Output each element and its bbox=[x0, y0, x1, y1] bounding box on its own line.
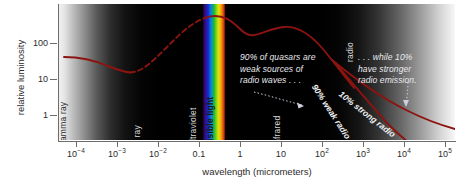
x-tick-label-1: 10−3 bbox=[108, 149, 126, 159]
x-tick-label-1-mantissa: 10 bbox=[108, 149, 118, 159]
plot-area: gamma ray X ray ultraviolet visible ligh… bbox=[58, 4, 455, 140]
x-tick-label-6-mantissa: 10 bbox=[315, 149, 325, 159]
x-tick-8 bbox=[404, 142, 405, 147]
y-tick-0 bbox=[50, 43, 57, 44]
x-tick-9 bbox=[445, 142, 446, 147]
annotation-strong-line3: radio emission. bbox=[358, 75, 417, 87]
y-tick-label-0: 100 bbox=[24, 38, 48, 48]
y-tick-label-2: 1 bbox=[24, 110, 48, 120]
x-tick-label-4: 1 bbox=[237, 149, 242, 159]
x-tick-label-2: 10−2 bbox=[149, 149, 167, 159]
leader-arrow-weak bbox=[297, 103, 304, 109]
x-tick-label-3: 0.1 bbox=[192, 149, 205, 159]
x-tick-label-5-mantissa: 10 bbox=[276, 149, 286, 159]
x-tick-label-8: 104 bbox=[397, 149, 411, 159]
spectrum-luminosity-figure: gamma ray X ray ultraviolet visible ligh… bbox=[0, 0, 476, 191]
curve-main-dashed-segment bbox=[130, 17, 210, 73]
annotation-weak-radio: 90% of quasars are weak sources of radio… bbox=[240, 52, 316, 87]
leader-arrow-strong bbox=[403, 100, 409, 107]
x-tick-label-7-mantissa: 10 bbox=[356, 149, 366, 159]
x-tick-7 bbox=[363, 142, 364, 147]
x-tick-label-6: 102 bbox=[315, 149, 329, 159]
x-tick-label-6-exp: 2 bbox=[325, 147, 329, 154]
x-tick-label-1-exp: −3 bbox=[118, 147, 126, 154]
annotation-weak-line2: weak sources of bbox=[240, 64, 316, 76]
y-tick-1 bbox=[50, 79, 57, 80]
annotation-strong-line1: . . . while 10% bbox=[358, 52, 417, 64]
leader-line-weak bbox=[254, 92, 302, 105]
x-tick-label-8-exp: 4 bbox=[407, 147, 411, 154]
x-tick-label-0-mantissa: 10 bbox=[67, 149, 77, 159]
x-tick-label-7-exp: 3 bbox=[366, 147, 370, 154]
x-tick-label-7: 103 bbox=[356, 149, 370, 159]
x-tick-label-5: 10 bbox=[276, 149, 286, 159]
x-tick-label-4-mantissa: 1 bbox=[237, 149, 242, 159]
annotation-strong-radio: . . . while 10% have stronger radio emis… bbox=[358, 52, 417, 87]
annotation-strong-line2: have stronger bbox=[358, 64, 417, 76]
y-axis-line bbox=[58, 4, 59, 141]
y-tick-label-1: 10 bbox=[24, 74, 48, 84]
x-tick-label-3-mantissa: 0.1 bbox=[192, 149, 205, 159]
x-tick-label-2-mantissa: 10 bbox=[149, 149, 159, 159]
annotation-weak-line3: radio waves . . . bbox=[240, 75, 316, 87]
x-tick-label-0: 10−4 bbox=[67, 149, 85, 159]
x-tick-label-9-exp: 5 bbox=[448, 147, 452, 154]
annotation-weak-line1: 90% of quasars are bbox=[240, 52, 316, 64]
x-tick-label-8-mantissa: 10 bbox=[397, 149, 407, 159]
x-tick-3 bbox=[199, 142, 200, 147]
y-tick-2 bbox=[50, 115, 57, 116]
x-tick-label-9-mantissa: 10 bbox=[438, 149, 448, 159]
x-axis-title: wavelength (micrometers) bbox=[58, 166, 456, 177]
x-tick-label-9: 105 bbox=[438, 149, 452, 159]
curve-main-solid-left bbox=[64, 57, 130, 73]
x-tick-label-2-exp: −2 bbox=[159, 147, 167, 154]
x-tick-5 bbox=[281, 142, 282, 147]
x-tick-4 bbox=[240, 142, 241, 147]
y-axis-title: relative luminosity bbox=[15, 30, 26, 126]
x-tick-6 bbox=[322, 142, 323, 147]
x-tick-label-0-exp: −4 bbox=[77, 147, 85, 154]
